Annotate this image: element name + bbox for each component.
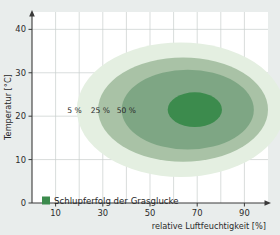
x-tick-label: 10 [50, 208, 61, 218]
x-tick-label: 70 [192, 208, 203, 218]
x-tick-label: 90 [239, 208, 250, 218]
legend-label: Schlupferfolg der Grasglucke [54, 196, 179, 206]
y-axis-label: Temperatur [°C] [3, 74, 13, 141]
x-axis-label: relative Luftfeuchtigkeit [%] [152, 221, 266, 231]
x-tick-label: 30 [97, 208, 108, 218]
contour-label-25: 25 % [91, 106, 110, 115]
x-tick-label: 50 [145, 208, 156, 218]
contour-label-50: 50 % [117, 106, 136, 115]
legend: Schlupferfolg der Grasglucke [42, 196, 179, 206]
y-tick-label: 10 [15, 155, 26, 165]
legend-swatch [42, 197, 50, 205]
y-tick-label: 0 [21, 198, 26, 208]
contour-label-5: 5 % [67, 106, 81, 115]
contour-region-75 [168, 92, 222, 127]
contour-labels: 5 %25 %50 % [67, 106, 136, 115]
y-tick-label: 20 [15, 111, 26, 121]
chart-svg: 1030507090010203040 5 %25 %50 % Temperat… [0, 0, 280, 235]
y-tick-label: 40 [15, 24, 26, 34]
chart-container: 1030507090010203040 5 %25 %50 % Temperat… [0, 0, 280, 235]
y-tick-label: 30 [15, 68, 26, 78]
